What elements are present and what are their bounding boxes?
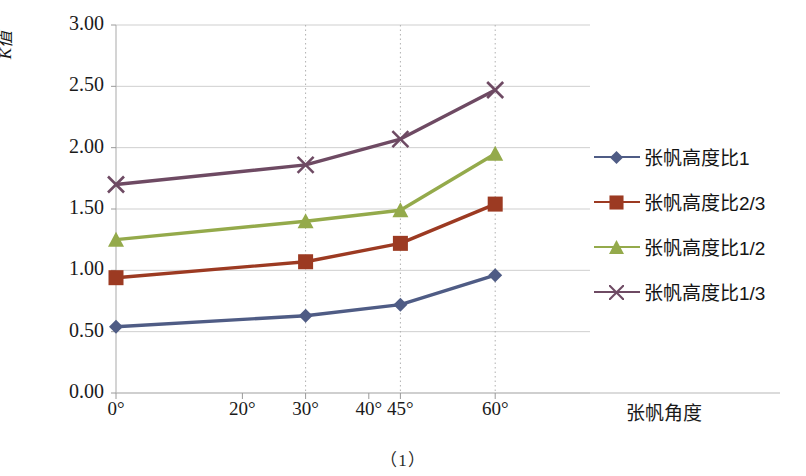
legend-triangle-icon <box>609 240 624 255</box>
legend-diamond-icon <box>609 150 624 165</box>
legend-marker-sample <box>594 281 640 303</box>
legend-marker-sample <box>594 146 640 168</box>
legend-marker-sample <box>594 236 640 258</box>
data-point-marker <box>393 298 407 312</box>
chart-figure: K值 0.000.501.001.502.002.503.00 0°20°30°… <box>0 0 806 476</box>
data-point-marker <box>298 254 313 269</box>
y-tick-label: 2.50 <box>42 73 104 96</box>
y-tick-label: 2.00 <box>42 135 104 158</box>
data-point-marker <box>299 309 313 323</box>
legend-square-icon <box>609 195 624 210</box>
figure-caption: （1） <box>0 446 806 471</box>
legend-cross-icon <box>609 285 624 300</box>
legend-label: 张帆高度比2/3 <box>644 188 765 215</box>
legend-item: 张帆高度比2/3 <box>594 179 806 224</box>
x-tick-label: 30° <box>279 398 333 420</box>
legend-label: 张帆高度比1/2 <box>644 233 765 260</box>
data-point-marker <box>109 270 124 285</box>
y-tick-label: 1.50 <box>42 196 104 219</box>
x-tick-label: 60° <box>468 398 522 420</box>
x-tick-label: 45° <box>373 398 427 420</box>
legend-label: 张帆高度比1 <box>644 143 750 170</box>
legend-item: 张帆高度比1/2 <box>594 224 806 269</box>
legend-item: 张帆高度比1/3 <box>594 269 806 314</box>
data-point-marker <box>393 236 408 251</box>
y-tick-label: 1.00 <box>42 257 104 280</box>
x-tick-label: 20° <box>215 398 269 420</box>
gridlines-group <box>116 25 590 393</box>
data-point-marker <box>488 197 503 212</box>
y-tick-label: 3.00 <box>42 12 104 35</box>
legend-label: 张帆高度比1/3 <box>644 278 765 305</box>
x-tick-label: 0° <box>89 398 143 420</box>
x-axis-title: 张帆角度 <box>626 398 702 425</box>
chart-legend: 张帆高度比1张帆高度比2/3张帆高度比1/2张帆高度比1/3 <box>594 134 806 314</box>
legend-item: 张帆高度比1 <box>594 134 806 179</box>
figure-caption-text: （1） <box>380 446 426 471</box>
legend-marker-sample <box>594 191 640 213</box>
y-tick-label: 0.50 <box>42 319 104 342</box>
